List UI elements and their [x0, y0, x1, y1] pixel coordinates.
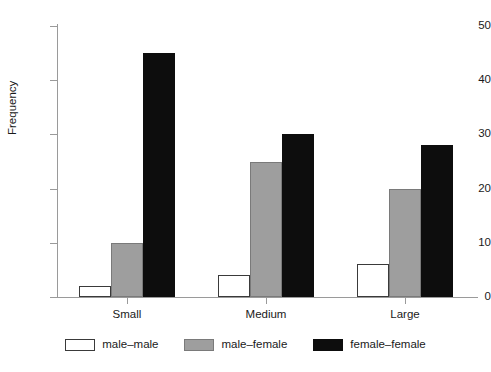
bar-medium-female-female	[282, 134, 314, 297]
x-tick-mark	[127, 298, 128, 304]
bar-medium-male-female	[250, 162, 282, 298]
bar-small-male-female	[111, 243, 143, 297]
bar-large-male-female	[389, 189, 421, 297]
bar-large-female-female	[421, 145, 453, 297]
y-tick-mark	[50, 189, 57, 190]
bar-small-female-female	[143, 53, 175, 297]
x-tick-label: Large	[390, 308, 419, 321]
bar-small-male-male	[79, 286, 111, 297]
legend-swatch-icon	[65, 339, 95, 351]
legend-label: female–female	[350, 338, 425, 351]
chart-legend: male–malemale–femalefemale–female	[0, 338, 491, 351]
x-tick-mark	[266, 298, 267, 304]
y-tick-mark	[50, 80, 57, 81]
bar-medium-male-male	[218, 275, 250, 297]
legend-item-male-female[interactable]: male–female	[184, 338, 287, 351]
y-tick-mark	[50, 243, 57, 244]
x-tick-label: Medium	[246, 308, 287, 321]
bar-chart: Frequency 01020304050 SmallMediumLarge m…	[0, 0, 491, 372]
y-axis-label: Frequency	[6, 81, 18, 135]
y-tick-mark	[50, 26, 57, 27]
y-tick-mark	[50, 297, 57, 298]
legend-label: male–female	[221, 338, 287, 351]
bar-large-male-male	[357, 264, 389, 297]
legend-swatch-icon	[313, 339, 343, 351]
legend-swatch-icon	[184, 339, 214, 351]
plot-area	[57, 26, 475, 297]
legend-item-male-male[interactable]: male–male	[65, 338, 158, 351]
y-tick-mark	[50, 134, 57, 135]
legend-item-female-female[interactable]: female–female	[313, 338, 425, 351]
legend-label: male–male	[102, 338, 158, 351]
x-tick-label: Small	[113, 308, 142, 321]
x-tick-mark	[405, 298, 406, 304]
x-axis-line	[57, 297, 478, 298]
